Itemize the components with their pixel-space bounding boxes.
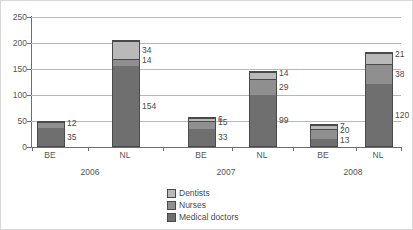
legend-swatch-icon — [167, 189, 176, 198]
value-label-dentists: 14 — [279, 69, 288, 79]
x-axis-group-label: 2007 — [196, 167, 256, 177]
bar-2006-BE[interactable] — [37, 121, 65, 147]
bar-segment-nurses — [250, 79, 276, 94]
gridline — [31, 121, 401, 122]
x-axis-group-label: 2008 — [323, 167, 383, 177]
x-axis-category-label: NL — [105, 150, 145, 160]
x-axis-tick-mark — [232, 147, 233, 151]
value-label-nurses: 29 — [279, 83, 288, 93]
value-label-doctors: 35 — [67, 133, 76, 143]
legend-item[interactable]: Dentists — [167, 187, 239, 199]
gridline — [31, 69, 401, 70]
x-axis-category-label: BE — [303, 150, 343, 160]
value-label-dentists: 7 — [340, 122, 345, 132]
y-axis-tick-label: 100 — [3, 91, 27, 100]
legend-label: Nurses — [179, 200, 206, 210]
value-label-dentists: 6 — [218, 115, 223, 125]
value-label-doctors: 33 — [218, 133, 227, 143]
bar-segment-doctors — [113, 66, 139, 146]
bar-segment-doctors — [311, 139, 337, 146]
value-label-doctors: 120 — [395, 111, 409, 121]
x-axis-line — [31, 147, 402, 148]
x-axis-category-label: BE — [181, 150, 221, 160]
x-axis-tick-mark — [401, 147, 402, 151]
x-axis-tick-mark — [32, 147, 33, 151]
value-label-nurses: 38 — [395, 70, 404, 80]
stacked-bar-chart: 250200150100500 351215414343315699291413… — [0, 0, 413, 230]
value-label-nurses: 12 — [67, 119, 76, 129]
bar-segment-doctors — [189, 129, 215, 146]
bar-segment-doctors — [366, 84, 392, 146]
legend-item[interactable]: Nurses — [167, 199, 239, 211]
y-axis-tick-mark — [27, 121, 31, 122]
legend-label: Dentists — [179, 188, 210, 198]
y-axis-tick-mark — [27, 147, 31, 148]
y-axis-tick-label: 50 — [3, 117, 27, 126]
bar-2008-BE[interactable] — [310, 124, 338, 147]
value-label-dentists: 34 — [142, 46, 151, 56]
y-axis-tick-label: 0 — [3, 143, 27, 152]
x-axis-category-label: NL — [242, 150, 282, 160]
bar-segment-nurses — [189, 121, 215, 129]
x-axis-tick-mark — [356, 147, 357, 151]
y-axis-tick-label: 250 — [3, 13, 27, 22]
legend-label: Medical doctors — [179, 212, 239, 222]
bar-segment-nurses — [366, 64, 392, 84]
y-axis-tick-mark — [27, 17, 31, 18]
legend-swatch-icon — [167, 213, 176, 222]
y-axis-tick-label: 150 — [3, 65, 27, 74]
y-axis-tick-mark — [27, 95, 31, 96]
y-axis-tick-label: 200 — [3, 39, 27, 48]
value-label-nurses: 14 — [142, 56, 151, 66]
gridline — [31, 43, 401, 44]
bar-segment-doctors — [250, 95, 276, 146]
gridline — [31, 95, 401, 96]
value-label-doctors: 154 — [142, 102, 156, 112]
bar-segment-nurses — [113, 59, 139, 66]
y-axis-tick-mark — [27, 69, 31, 70]
gridline — [31, 17, 401, 18]
x-axis-tick-mark — [88, 147, 89, 151]
bar-2007-BE[interactable] — [188, 117, 216, 147]
value-label-dentists: 21 — [395, 50, 404, 60]
x-axis-group-label: 2006 — [60, 167, 120, 177]
plot-area: 3512154143433156992914132071203821 — [31, 17, 401, 147]
bar-segment-doctors — [38, 128, 64, 146]
bar-2006-NL[interactable] — [112, 40, 140, 147]
legend-item[interactable]: Medical doctors — [167, 211, 239, 223]
x-axis-tick-mark — [293, 147, 294, 151]
x-axis-tick-mark — [163, 147, 164, 151]
bar-segment-dentists — [113, 41, 139, 59]
value-label-doctors: 13 — [340, 136, 349, 146]
bar-2008-NL[interactable] — [365, 52, 393, 147]
chart-legend: DentistsNursesMedical doctors — [167, 187, 239, 223]
x-axis-category-label: NL — [358, 150, 398, 160]
bar-2007-NL[interactable] — [249, 71, 277, 147]
bar-segment-dentists — [366, 53, 392, 64]
bar-segment-dentists — [250, 72, 276, 79]
y-axis-tick-mark — [27, 43, 31, 44]
y-axis-labels: 250200150100500 — [1, 17, 27, 147]
value-label-doctors: 99 — [279, 116, 288, 126]
bar-segment-nurses — [311, 129, 337, 139]
legend-swatch-icon — [167, 201, 176, 210]
x-axis-category-label: BE — [30, 150, 70, 160]
